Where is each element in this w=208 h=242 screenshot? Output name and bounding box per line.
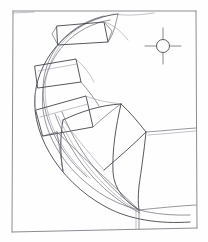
sketch-page: Hand-drawn perspective sketch segmented …: [0, 0, 208, 242]
sketch-canvas: [0, 0, 208, 242]
